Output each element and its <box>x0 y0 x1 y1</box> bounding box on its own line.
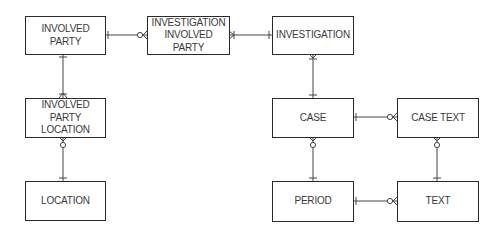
entity-involved-party-location: INVOLVED PARTY LOCATION <box>25 98 106 138</box>
entity-label: CASE <box>300 112 326 125</box>
entity-location: LOCATION <box>25 181 106 221</box>
entity-label: TEXT <box>426 195 451 208</box>
entity-label: INVOLVED PARTY LOCATION <box>41 99 90 137</box>
rel-period-text <box>353 197 397 205</box>
entity-label: INVOLVED PARTY <box>41 23 89 48</box>
entity-label: CASE TEXT <box>411 112 465 125</box>
rel-investigation-investigation-involved-party <box>229 31 272 39</box>
entity-text: TEXT <box>397 181 479 222</box>
rel-location-involved-party-location <box>59 137 67 181</box>
entity-investigation-involved-party: INVESTIGATION INVOLVED PARTY <box>147 16 230 55</box>
rel-period-case <box>309 137 317 181</box>
rel-involved-party-location <box>59 54 67 98</box>
rel-investigation-case <box>309 54 317 98</box>
entity-case-text: CASE TEXT <box>397 98 479 138</box>
entity-involved-party: INVOLVED PARTY <box>25 16 106 55</box>
entity-investigation: INVESTIGATION <box>272 16 354 55</box>
er-diagram: INVOLVED PARTY INVESTIGATION INVOLVED PA… <box>0 0 486 234</box>
entity-label: LOCATION <box>41 195 90 208</box>
entity-label: INVESTIGATION INVOLVED PARTY <box>148 17 229 55</box>
rel-text-case-text <box>433 137 441 181</box>
entity-case: CASE <box>272 98 354 138</box>
entity-label: PERIOD <box>294 195 331 208</box>
entity-period: PERIOD <box>272 181 354 222</box>
rel-involved-party-investigation-involved-party <box>105 31 147 39</box>
entity-label: INVESTIGATION <box>276 29 350 42</box>
rel-case-case-text <box>353 113 397 121</box>
